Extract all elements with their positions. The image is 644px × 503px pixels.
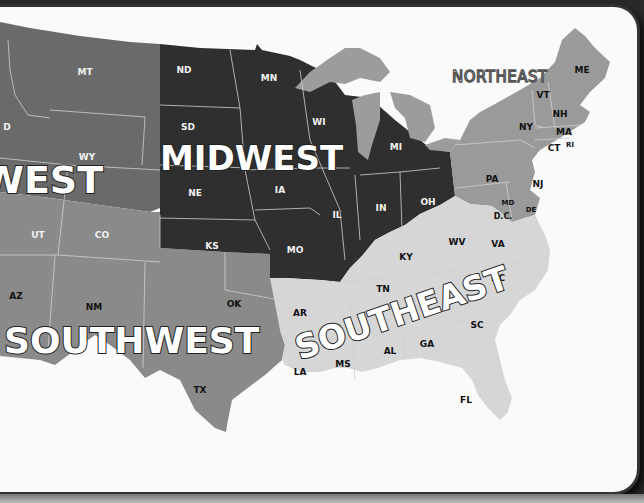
state-label-ny: NY bbox=[519, 122, 534, 132]
state-label-wi: WI bbox=[312, 117, 325, 127]
state-label-ar: AR bbox=[293, 308, 307, 318]
state-label-ky: KY bbox=[399, 252, 413, 262]
state-label-ma: MA bbox=[556, 127, 572, 137]
state-label-pa: PA bbox=[486, 174, 499, 184]
state-label-il: IL bbox=[332, 210, 341, 220]
state-label-tx: TX bbox=[193, 385, 206, 395]
state-label-al: AL bbox=[384, 346, 397, 356]
state-label-co: CO bbox=[95, 230, 110, 240]
state-label-sc: SC bbox=[470, 320, 483, 330]
region-label-west: WEST bbox=[0, 158, 103, 202]
state-label-id: D bbox=[3, 122, 10, 132]
region-label-northeast: NORTHEAST bbox=[452, 68, 548, 86]
state-label-va: VA bbox=[491, 239, 504, 249]
state-label-ga: GA bbox=[420, 339, 434, 349]
state-label-vt: VT bbox=[536, 90, 550, 100]
state-label-mn: MN bbox=[261, 73, 278, 83]
state-label-ne: NE bbox=[188, 188, 202, 198]
state-label-md: MD bbox=[502, 199, 515, 207]
state-label-ks: KS bbox=[205, 241, 218, 251]
state-label-nj: NJ bbox=[533, 179, 544, 189]
state-label-ok: OK bbox=[227, 299, 243, 309]
us-regions-map: MT D WY UT CO AZ NM OK TX ND SD NE KS MN… bbox=[0, 0, 644, 503]
state-label-in: IN bbox=[376, 203, 387, 213]
region-label-southwest: SOUTHWEST bbox=[4, 320, 260, 361]
state-label-nd: ND bbox=[176, 65, 191, 75]
state-label-oh: OH bbox=[420, 197, 435, 207]
state-label-mt: MT bbox=[77, 67, 93, 77]
state-label-wv: WV bbox=[449, 237, 466, 247]
state-label-dc: D.C. bbox=[494, 212, 513, 221]
state-label-ut: UT bbox=[31, 230, 45, 240]
state-label-ri: RI bbox=[566, 141, 574, 149]
state-label-mo: MO bbox=[287, 245, 304, 255]
state-label-nh: NH bbox=[552, 109, 567, 119]
state-label-nm: NM bbox=[86, 302, 103, 312]
state-label-sd: SD bbox=[181, 122, 195, 132]
state-label-ms: MS bbox=[335, 359, 350, 369]
state-label-ct: CT bbox=[548, 143, 562, 153]
state-label-me: ME bbox=[574, 65, 589, 75]
state-label-az: AZ bbox=[9, 291, 23, 301]
region-label-midwest: MIDWEST bbox=[160, 138, 344, 178]
state-label-tn: TN bbox=[376, 284, 390, 294]
state-label-ia: IA bbox=[275, 185, 285, 195]
state-label-de: DE bbox=[526, 206, 537, 214]
state-label-fl: FL bbox=[460, 395, 472, 405]
state-label-la: LA bbox=[294, 367, 307, 377]
state-label-mi: MI bbox=[390, 142, 402, 152]
